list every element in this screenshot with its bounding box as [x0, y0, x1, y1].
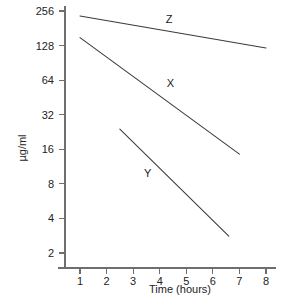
series-line-x: [80, 38, 239, 155]
series-label-z: Z: [166, 13, 173, 25]
series-label-x: X: [167, 77, 175, 89]
series-label-y: Y: [144, 167, 152, 179]
chart-plot-svg: 248163264128256 12345678 ZXY Time (hours…: [0, 0, 285, 299]
y-tick-label: 256: [36, 5, 54, 17]
y-tick-label: 2: [48, 247, 54, 259]
x-tick-label: 7: [236, 275, 242, 287]
y-tick-label: 32: [42, 109, 54, 121]
series-line-z: [80, 16, 266, 48]
y-axis-title: µg/ml: [16, 134, 28, 161]
y-tick-label: 4: [48, 212, 54, 224]
x-tick-label: 3: [130, 275, 136, 287]
y-tick-label: 16: [42, 143, 54, 155]
x-tick-label: 2: [104, 275, 110, 287]
x-tick-label: 1: [77, 275, 83, 287]
series-label-group: ZXY: [144, 13, 175, 179]
chart-container: 248163264128256 12345678 ZXY Time (hours…: [0, 0, 285, 299]
y-tick-label: 128: [36, 40, 54, 52]
x-tick-label: 8: [263, 275, 269, 287]
y-tick-label: 8: [48, 178, 54, 190]
y-tick-group: 248163264128256: [36, 5, 65, 259]
y-tick-label: 64: [42, 74, 54, 86]
series-line-y: [120, 129, 229, 236]
x-axis-title: Time (hours): [149, 283, 211, 295]
series-group: [80, 16, 266, 236]
